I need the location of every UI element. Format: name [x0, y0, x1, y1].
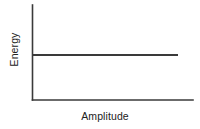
y-axis-label-text: Energy — [9, 0, 20, 114]
y-axis-label: Energy — [9, 0, 23, 114]
chart-figure: Energy Amplitude — [0, 0, 200, 129]
x-axis-label: Amplitude — [32, 111, 178, 122]
